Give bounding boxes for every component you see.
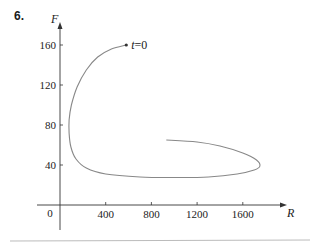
y-tick-label: 80 [45,119,57,131]
phase-plot: FR0 400800120016004080120160 t=0 [0,0,310,244]
x-axis-label: R [286,206,295,220]
x-tick-label: 800 [143,208,160,220]
bottom-rule [10,240,310,241]
origin-label: 0 [47,207,53,219]
start-annotation: t=0 [131,38,147,52]
ticks: 400800120016004080120160 [40,39,255,220]
y-tick-label: 120 [40,79,57,91]
x-axis-arrow-icon [280,203,287,208]
trajectory-curve [69,45,260,178]
x-tick-label: 400 [97,208,114,220]
y-tick-label: 160 [40,39,57,51]
axes: FR0 [37,12,295,230]
y-axis-label: F [50,12,59,26]
y-tick-label: 40 [45,159,57,171]
start-point-marker [125,43,128,46]
x-tick-label: 1600 [232,208,255,220]
x-tick-label: 1200 [186,208,209,220]
